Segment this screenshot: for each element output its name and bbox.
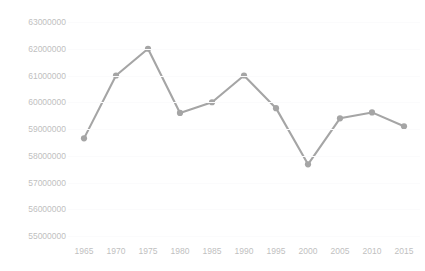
- gridline: [68, 209, 420, 210]
- y-axis-tick-label: 57000000: [4, 178, 66, 188]
- data-point: [177, 110, 183, 116]
- line-chart: 6300000062000000610000006000000059000000…: [0, 0, 425, 271]
- gridline: [68, 22, 420, 23]
- y-axis-tick-label: 58000000: [4, 151, 66, 161]
- data-point: [81, 135, 87, 141]
- gridline: [68, 76, 420, 77]
- gridline: [68, 156, 420, 157]
- series-polyline: [84, 49, 404, 165]
- plot-area: [68, 22, 420, 236]
- data-point: [273, 105, 279, 111]
- data-point: [305, 161, 311, 167]
- y-axis-tick-label: 55000000: [4, 231, 66, 241]
- gridline: [68, 49, 420, 50]
- gridline: [68, 183, 420, 184]
- x-axis-tick-label: 2015: [384, 246, 424, 257]
- gridline: [68, 129, 420, 130]
- gridline: [68, 102, 420, 103]
- y-axis-tick-label: 63000000: [4, 17, 66, 27]
- y-axis-tick-label: 59000000: [4, 124, 66, 134]
- data-point: [337, 115, 343, 121]
- y-axis-tick-label: 60000000: [4, 97, 66, 107]
- x-axis: 1965197019751980198519901995200020052010…: [68, 246, 420, 260]
- data-point: [369, 109, 375, 115]
- gridline: [68, 236, 420, 237]
- y-axis: 6300000062000000610000006000000059000000…: [0, 0, 66, 271]
- y-axis-tick-label: 56000000: [4, 204, 66, 214]
- y-axis-tick-label: 62000000: [4, 44, 66, 54]
- y-axis-tick-label: 61000000: [4, 71, 66, 81]
